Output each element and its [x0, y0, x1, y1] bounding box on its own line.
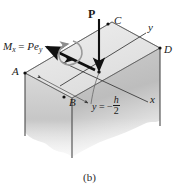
- fraction-denominator: 2: [113, 106, 120, 116]
- moment-rhs-subscript: y: [39, 45, 42, 54]
- moment-rhs: Pe: [27, 40, 39, 52]
- moment-symbol: M: [3, 40, 12, 52]
- figure-caption: (b): [0, 171, 179, 183]
- axis-label-y: y: [148, 22, 153, 33]
- force-label-P: P: [88, 8, 95, 20]
- annotation-equals: = −: [99, 101, 113, 112]
- neutral-axis-annotation: y = −h2: [92, 95, 120, 116]
- annotation-lhs: y: [92, 101, 96, 112]
- moment-label-Mx: Mx = Pey: [3, 41, 42, 54]
- fraction-h-over-2: h2: [113, 95, 120, 116]
- axis-label-x: x: [150, 94, 155, 105]
- vertex-label-c: C: [114, 15, 121, 26]
- vertex-label-a: A: [12, 66, 19, 77]
- vertex-label-b: B: [69, 97, 76, 108]
- figure-container: P Mx = Pey A B C D y x y = −h2 (b): [0, 0, 179, 190]
- moment-equals: =: [18, 40, 24, 52]
- vertex-label-d: D: [164, 44, 172, 55]
